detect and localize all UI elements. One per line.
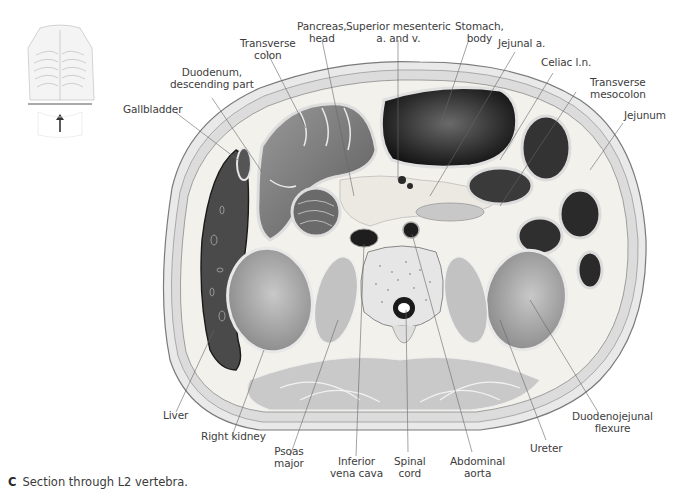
abdominal-aorta [403, 222, 419, 238]
label-gallbladder: Gallbladder [123, 103, 182, 115]
figure-caption: CSection through L2 vertebra. [8, 475, 188, 489]
label-pancreas-head: Pancreas, head [297, 20, 347, 44]
label-psoas-major: Psoas major [274, 445, 304, 469]
label-duodenojejunal-flexure: Duodenojejunal flexure [572, 410, 653, 434]
label-liver: Liver [163, 409, 188, 421]
label-inferior-vena-cava: Inferior vena cava [330, 455, 383, 479]
duodenum [292, 188, 340, 236]
label-abdominal-aorta: Abdominal aorta [450, 455, 505, 479]
caption-text: Section through L2 vertebra. [22, 475, 188, 489]
label-ureter: Ureter [530, 442, 563, 454]
label-jejunal-a: Jejunal a. [498, 37, 545, 49]
label-celiac-ln: Celiac l.n. [541, 56, 591, 68]
spinal-cord [398, 303, 410, 313]
label-spinal-cord: Spinal cord [394, 455, 426, 479]
label-stomach-body: Stomach, body [455, 20, 504, 44]
label-transverse-mesocolon: Transverse mesocolon [590, 76, 646, 100]
anatomy-figure: Transverse colon Pancreas, head Superior… [0, 0, 692, 503]
label-jejunum: Jejunum [624, 109, 666, 121]
label-transverse-colon: Transverse colon [240, 37, 296, 61]
superior-mesenteric-vessels [398, 176, 406, 184]
caption-letter: C [8, 475, 16, 489]
label-superior-mesenteric: Superior mesenteric a. and v. [346, 20, 451, 44]
label-right-kidney: Right kidney [201, 430, 266, 442]
label-duodenum-descending: Duodenum, descending part [170, 66, 254, 90]
orientation-thumbnail [28, 25, 94, 138]
